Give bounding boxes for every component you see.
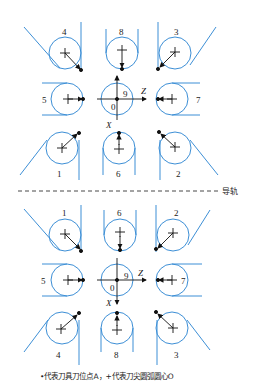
svg-text:0: 0 xyxy=(110,283,115,293)
svg-text:Z: Z xyxy=(138,268,144,278)
svg-text:9: 9 xyxy=(123,89,128,99)
tool-tip-direction-diagram: 4 8 3 5 7 9 0 Z X 1 6 2 导轨 xyxy=(0,0,258,387)
svg-text:1: 1 xyxy=(62,208,67,218)
svg-text:4: 4 xyxy=(56,350,61,360)
svg-text:X: X xyxy=(105,120,112,130)
guide-rail: 导轨 xyxy=(18,186,238,196)
svg-text:2: 2 xyxy=(174,208,179,218)
upper-group xyxy=(20,22,218,180)
svg-text:8: 8 xyxy=(119,27,124,37)
lower-labels: 1 6 2 5 7 9 0 Z X 4 8 3 xyxy=(41,208,186,360)
svg-text:7: 7 xyxy=(181,276,186,286)
svg-text:6: 6 xyxy=(116,169,121,179)
svg-text:3: 3 xyxy=(174,350,179,360)
svg-text:7: 7 xyxy=(196,95,201,105)
svg-text:5: 5 xyxy=(42,95,47,105)
svg-text:8: 8 xyxy=(114,350,119,360)
svg-text:1: 1 xyxy=(57,169,62,179)
svg-text:X: X xyxy=(105,298,112,308)
svg-text:5: 5 xyxy=(41,276,46,286)
svg-text:9: 9 xyxy=(124,271,129,281)
svg-text:导轨: 导轨 xyxy=(222,186,238,196)
svg-text:3: 3 xyxy=(174,27,179,37)
legend-caption: •代表刀具刀位点A，+代表刀尖圆弧圆心O xyxy=(40,370,174,381)
svg-text:Z: Z xyxy=(141,86,147,96)
svg-text:2: 2 xyxy=(176,169,181,179)
svg-text:6: 6 xyxy=(117,208,122,218)
svg-text:0: 0 xyxy=(111,102,116,112)
svg-text:4: 4 xyxy=(62,27,67,37)
